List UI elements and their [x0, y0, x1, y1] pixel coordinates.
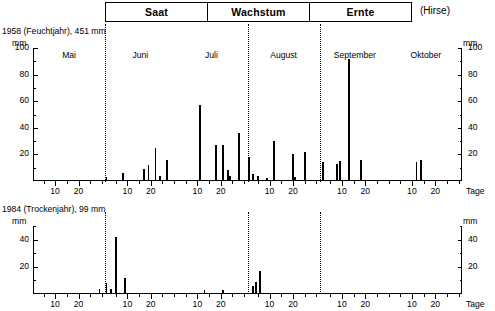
bar-1958-August-12: [273, 141, 275, 181]
bar-1958-Juli-21: [222, 145, 224, 181]
xtick-1984: [151, 294, 152, 299]
xtick-1958: [389, 181, 390, 184]
xtick-1984: [354, 294, 355, 297]
xtick-1984: [90, 294, 91, 297]
bar-1984-Juni-5: [115, 237, 117, 294]
xtick-1958: [209, 181, 210, 184]
xtick-1958: [435, 181, 436, 186]
xtick-label-1984-Oktober-20: 20: [430, 299, 440, 309]
ytick-label-left-1958-100: 100: [3, 42, 29, 52]
xtick-label-1958-August-10: 10: [265, 186, 275, 196]
xtick-1984: [127, 294, 128, 299]
xtick-1958: [305, 181, 306, 184]
xtick-1958: [258, 181, 259, 184]
xtick-label-1984-September-10: 10: [337, 299, 347, 309]
xtick-label-1984-Oktober-10: 10: [407, 299, 417, 309]
bar-1984-Mai-29: [99, 289, 101, 294]
xtick-1958: [162, 181, 163, 184]
bar-1958-August-3: [252, 174, 254, 181]
bar-1958-September-9: [339, 161, 341, 181]
phase-separator-1-1958: [105, 24, 106, 182]
ytick-label-left-1958-20: 20: [3, 148, 29, 158]
ytick-right-1958: [458, 154, 463, 155]
xtick-1984: [305, 294, 306, 297]
bar-1984-Juli-21: [222, 290, 224, 294]
ytick-label-right-1958-20: 20: [468, 148, 478, 158]
xtick-label-1958-Mai-20: 20: [74, 186, 84, 196]
xtick-1984: [67, 294, 68, 297]
xtick-label-1984-September-20: 20: [360, 299, 370, 309]
ytick-right-1984: [460, 280, 463, 281]
xtick-1958: [281, 181, 282, 184]
bar-1958-Juni-24: [159, 176, 161, 181]
y-unit-right-1984: mm: [463, 216, 477, 226]
bar-1958-Juli-11: [199, 105, 201, 181]
bar-1958-September-13: [348, 59, 350, 181]
xtick-1984: [244, 294, 245, 297]
xtick-1984: [424, 294, 425, 297]
bar-1958-Juni-22: [155, 148, 157, 181]
xtick-1984: [186, 294, 187, 297]
month-label-mai: Mai: [62, 50, 76, 60]
xtick-1984: [389, 294, 390, 297]
bar-1958-Juni-17: [143, 169, 145, 181]
xtick-label-1958-September-20: 20: [360, 186, 370, 196]
xtick-label-1958-Juli-20: 20: [216, 186, 226, 196]
growth-phase-bar: Saat Wachstum Ernte: [105, 2, 412, 22]
xtick-1984: [139, 294, 140, 297]
xtick-label-1984-Juli-10: 10: [193, 299, 203, 309]
ytick-left-1958: [33, 128, 38, 129]
xtick-label-1958-Juni-10: 10: [123, 186, 133, 196]
xtick-label-1984-Juni-10: 10: [123, 299, 133, 309]
bar-1984-August-6: [259, 271, 261, 294]
y-axis-left-1984: [33, 226, 34, 294]
xtick-1958: [151, 181, 152, 186]
ytick-right-1958: [458, 75, 463, 76]
ytick-label-right-1958-80: 80: [468, 69, 478, 79]
xtick-label-1984-August-20: 20: [288, 299, 298, 309]
xtick-label-1984-Juni-20: 20: [146, 299, 156, 309]
xtick-1958: [116, 181, 117, 184]
crop-name-label: (Hirse): [420, 5, 450, 16]
xtick-1958: [424, 181, 425, 184]
bar-1958-Oktober-14: [420, 160, 422, 181]
ytick-left-1958: [33, 154, 38, 155]
xtick-1958: [365, 181, 366, 186]
ytick-right-1958: [460, 88, 463, 89]
xtick-label-1958-Oktober-10: 10: [407, 186, 417, 196]
phase-separator-3-1958: [320, 24, 321, 182]
bar-1958-Juli-28: [238, 133, 240, 181]
xtick-label-1958-August-20: 20: [288, 186, 298, 196]
xtick-1984: [270, 294, 271, 299]
ytick-label-left-1984-40: 40: [3, 234, 29, 244]
xtick-1958: [412, 181, 413, 186]
ytick-label-right-1984-20: 20: [468, 261, 478, 271]
bar-1958-Oktober-12: [416, 162, 418, 181]
ytick-right-1984: [460, 253, 463, 254]
y-axis-right-1984: [461, 226, 462, 294]
ytick-label-right-1984-40: 40: [468, 234, 478, 244]
ytick-right-1958: [458, 128, 463, 129]
bar-1984-August-4: [255, 282, 257, 294]
xtick-1984: [281, 294, 282, 297]
xtick-label-1958-Juni-20: 20: [146, 186, 156, 196]
ytick-left-1958: [33, 75, 38, 76]
xtick-label-1958-Oktober-20: 20: [430, 186, 440, 196]
ytick-left-1984: [33, 253, 36, 254]
xtick-1984: [330, 294, 331, 297]
phase-cell-wachstum: Wachstum: [208, 3, 310, 21]
ytick-right-1958: [460, 115, 463, 116]
bar-1958-Juni-8: [122, 173, 124, 181]
ytick-left-1958: [33, 101, 38, 102]
xtick-1958: [342, 181, 343, 186]
xtick-1984: [447, 294, 448, 297]
xtick-1984: [365, 294, 366, 299]
xtick-1984: [293, 294, 294, 299]
xtick-label-1958-Mai-10: 10: [50, 186, 60, 196]
xtick-1984: [209, 294, 210, 297]
xtick-1984: [232, 294, 233, 297]
xtick-1958: [316, 181, 317, 184]
xtick-1984: [197, 294, 198, 299]
ytick-right-1958: [460, 141, 463, 142]
xtick-label-1958-September-10: 10: [337, 186, 347, 196]
